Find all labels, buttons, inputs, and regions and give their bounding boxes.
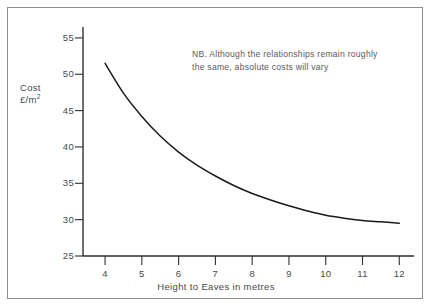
y-axis-title: Cost £/m2 <box>20 82 41 105</box>
x-axis-title: Height to Eaves in metres <box>0 281 432 292</box>
x-axis-tick-label: 11 <box>357 269 367 279</box>
y-axis-tick-label: 25 <box>52 251 74 261</box>
chart-figure: 25303540455055 456789101112 Cost £/m2 He… <box>0 0 432 308</box>
y-axis-tick-label: 40 <box>52 142 74 152</box>
y-axis-title-unit: £/m2 <box>20 94 41 105</box>
chart-plot-area <box>0 0 432 308</box>
x-axis-tick-label: 10 <box>320 269 331 279</box>
cost-curve <box>105 63 399 223</box>
y-axis-tick-label: 50 <box>52 70 74 80</box>
x-axis-tick-label: 4 <box>102 269 108 279</box>
y-axis-tick-marks <box>75 38 83 256</box>
y-axis-tick-label: 35 <box>52 179 74 189</box>
y-axis-tick-label: 30 <box>52 215 74 225</box>
x-axis-tick-label: 12 <box>394 269 405 279</box>
y-axis-unit-text: £/m <box>20 94 37 105</box>
y-axis-title-line1: Cost <box>20 82 41 93</box>
x-axis-tick-label: 9 <box>286 269 292 279</box>
chart-note-line-2: the same, absolute costs will vary <box>192 61 416 74</box>
chart-note: NB. Although the relationships remain ro… <box>192 48 416 73</box>
chart-note-line-1: NB. Although the relationships remain ro… <box>192 48 416 61</box>
y-axis-tick-label: 55 <box>52 33 74 43</box>
x-axis-tick-marks <box>105 256 399 265</box>
y-axis-unit-exponent: 2 <box>37 92 41 99</box>
x-axis-tick-label: 5 <box>139 269 145 279</box>
x-axis-tick-label: 6 <box>176 269 182 279</box>
x-axis-tick-label: 8 <box>249 269 255 279</box>
y-axis-tick-label: 45 <box>52 106 74 116</box>
x-axis-tick-label: 7 <box>213 269 219 279</box>
